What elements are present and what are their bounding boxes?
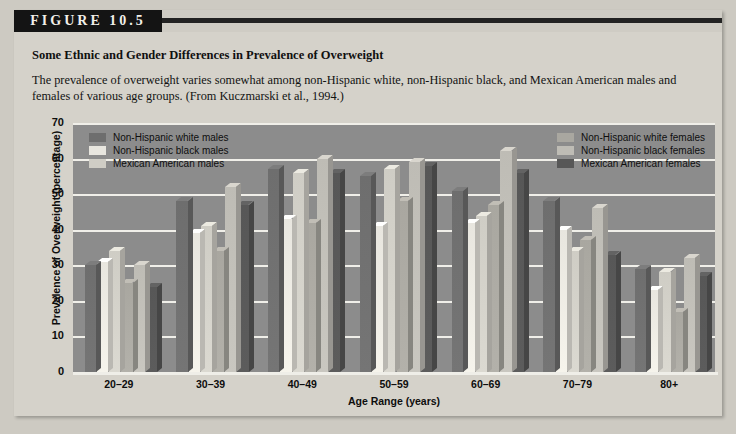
y-tick-label: 60 (34, 152, 64, 164)
bar-side-face (512, 148, 517, 372)
legend-swatch (89, 133, 106, 142)
bar-side-face (340, 169, 345, 372)
bar-side-face (432, 162, 437, 372)
bar-side-face (279, 165, 284, 372)
legend-label: Non-Hispanic white males (113, 132, 229, 143)
legend-label: Mexican American males (113, 158, 224, 169)
bar-side-face (145, 261, 150, 372)
legend-swatch (557, 133, 574, 142)
figure-page: FIGURE 10.5 Some Ethnic and Gender Diffe… (0, 0, 736, 434)
bar (268, 169, 279, 372)
bar-side-face (567, 226, 572, 372)
bar-side-face (328, 155, 333, 372)
bar-side-face (646, 265, 651, 372)
chart: Prevalence of Overweight (percentage) 01… (20, 118, 720, 410)
bar-side-face (579, 247, 584, 372)
figure-title: Some Ethnic and Gender Differences in Pr… (32, 48, 692, 63)
bar-side-face (420, 158, 425, 372)
bar-face (543, 201, 554, 372)
legend-swatch (89, 159, 106, 168)
bar-side-face (133, 279, 138, 372)
x-tick-label: 30–39 (165, 378, 257, 390)
legend-label: Mexican American females (581, 158, 701, 169)
bar-side-face (671, 268, 676, 372)
bar (452, 191, 463, 372)
gridline (73, 123, 715, 125)
y-tick-label: 20 (34, 294, 64, 306)
x-tick-label: 70–79 (532, 378, 624, 390)
legend-swatch (557, 146, 574, 155)
bar-side-face (212, 222, 217, 372)
x-tick-label: 80+ (623, 378, 715, 390)
bar-side-face (383, 222, 388, 372)
bar-side-face (108, 258, 113, 372)
bar-side-face (499, 201, 504, 372)
bar-side-face (157, 283, 162, 372)
y-tick-label: 10 (34, 329, 64, 341)
bar-face (635, 269, 646, 372)
bar-side-face (395, 165, 400, 372)
bar (85, 265, 96, 372)
legend-label: Non-Hispanic black males (113, 145, 229, 156)
legend-item: Mexican American males (89, 157, 229, 170)
bar (635, 269, 646, 372)
bar-side-face (475, 219, 480, 372)
y-tick-label: 50 (34, 187, 64, 199)
figure-caption: The prevalence of overweight varies some… (32, 72, 700, 104)
y-tick-label: 30 (34, 258, 64, 270)
plot-area: Non-Hispanic white malesNon-Hispanic bla… (73, 123, 715, 372)
bar-side-face (591, 236, 596, 372)
bar-side-face (292, 215, 297, 372)
x-axis-baseline (73, 372, 718, 375)
banner-rule (162, 18, 722, 23)
legend-males: Non-Hispanic white malesNon-Hispanic bla… (89, 131, 229, 170)
bar-side-face (96, 261, 101, 372)
bar-side-face (695, 254, 700, 372)
bar (176, 201, 187, 372)
bar-side-face (200, 229, 205, 372)
bar-side-face (304, 169, 309, 372)
bar-side-face (408, 197, 413, 372)
bar-side-face (658, 286, 663, 372)
legend-swatch (89, 146, 106, 155)
legend-item: Mexican American females (557, 157, 705, 170)
y-tick-label: 70 (34, 116, 64, 128)
figure-number-tab: FIGURE 10.5 (14, 10, 162, 32)
legend-item: Non-Hispanic white males (89, 131, 229, 144)
legend-label: Non-Hispanic white females (581, 132, 705, 143)
bar-side-face (236, 183, 241, 372)
figure-banner: FIGURE 10.5 (14, 10, 722, 32)
bar-face (452, 191, 463, 372)
bar-face (176, 201, 187, 372)
bar (360, 176, 371, 372)
bar-face (85, 265, 96, 372)
figure-number-label: FIGURE 10.5 (14, 10, 162, 32)
bar-side-face (603, 204, 608, 372)
bar-side-face (524, 169, 529, 372)
bar-side-face (683, 308, 688, 372)
legend-item: Non-Hispanic white females (557, 131, 705, 144)
bar (543, 201, 554, 372)
x-tick-label: 20–29 (73, 378, 165, 390)
x-axis-label: Age Range (years) (73, 395, 715, 407)
bar-side-face (463, 187, 468, 372)
x-tick-label: 60–69 (440, 378, 532, 390)
bar-side-face (120, 247, 125, 372)
bar-side-face (224, 247, 229, 372)
bar-side-face (555, 197, 560, 372)
legend-swatch (557, 159, 574, 168)
bar-side-face (371, 172, 376, 372)
legend-label: Non-Hispanic black females (581, 145, 705, 156)
legend-item: Non-Hispanic black males (89, 144, 229, 157)
y-tick-label: 40 (34, 223, 64, 235)
legend-item: Non-Hispanic black females (557, 144, 705, 157)
bar-side-face (487, 212, 492, 372)
x-tick-label: 40–49 (256, 378, 348, 390)
bar-face (268, 169, 279, 372)
bar-side-face (188, 197, 193, 372)
x-tick-label: 50–59 (348, 378, 440, 390)
bar-face (360, 176, 371, 372)
legend-females: Non-Hispanic white femalesNon-Hispanic b… (557, 131, 705, 170)
bar-side-face (249, 201, 254, 372)
bar-side-face (316, 219, 321, 372)
